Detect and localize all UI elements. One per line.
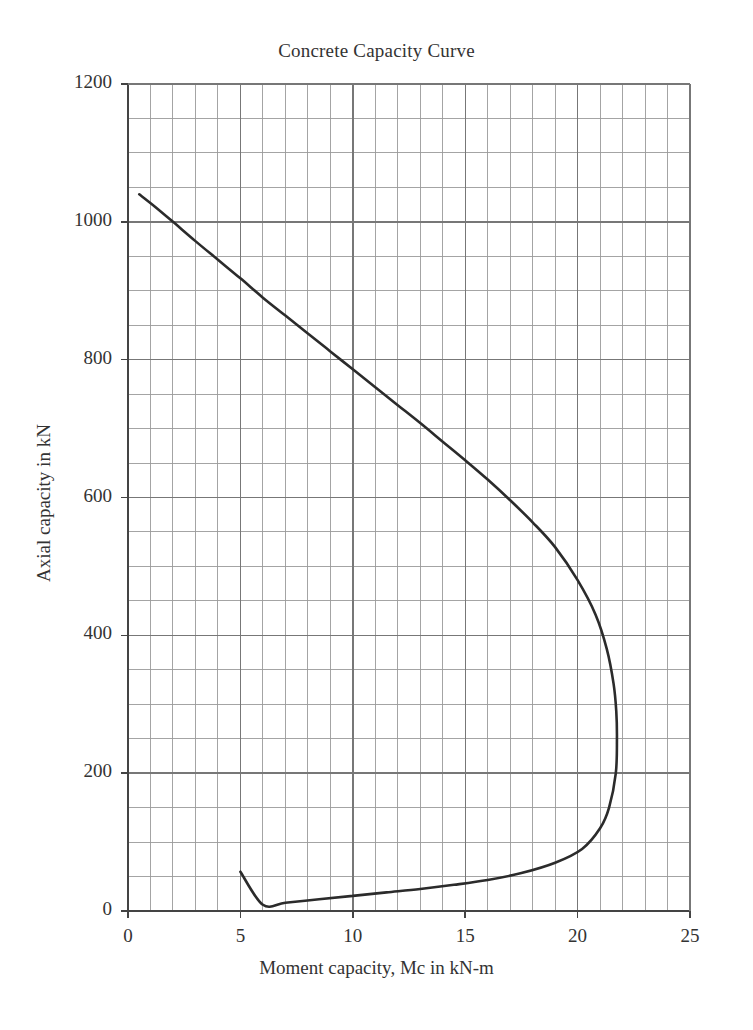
x-axis-tick-label: 20 [538,925,618,947]
y-axis-tick-label: 800 [20,347,112,369]
x-axis-tick-label: 5 [200,925,280,947]
x-axis-tick-label: 0 [88,925,168,947]
y-axis-tick-label: 1000 [20,209,112,231]
x-axis-tick-label: 15 [425,925,505,947]
plot-svg [128,84,690,911]
y-axis-tick-label: 200 [20,760,112,782]
axis-tick-marks [121,84,690,918]
plot-area [128,84,690,911]
y-axis-tick-label: 0 [20,898,112,920]
x-axis-tick-label: 10 [313,925,393,947]
x-axis-title: Moment capacity, Mc in kN-m [0,957,753,979]
x-axis-tick-label: 25 [650,925,730,947]
chart-figure: Concrete Capacity Curve 0200400600800100… [0,0,753,1030]
grid-major-lines [128,84,690,911]
y-axis-title: Axial capacity in kN [33,373,55,633]
chart-title: Concrete Capacity Curve [0,40,753,62]
y-axis-tick-label: 1200 [20,71,112,93]
capacity-curve [139,194,617,907]
